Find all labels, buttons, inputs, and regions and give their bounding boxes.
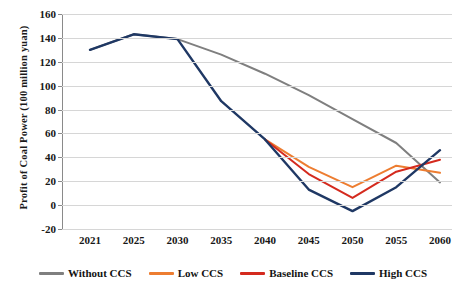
- y-axis-tick-label: -20: [16, 223, 56, 235]
- y-axis-tick-label: 20: [16, 175, 56, 187]
- y-axis-tick-label: 40: [16, 151, 56, 163]
- plot-area: [62, 14, 452, 229]
- gridline: [62, 133, 452, 134]
- legend-label: Without CCS: [68, 267, 132, 279]
- chart-legend: Without CCSLow CCSBaseline CCSHigh CCS: [0, 262, 466, 284]
- legend-item[interactable]: Low CCS: [149, 267, 224, 279]
- x-axis-tick-label: 2050: [342, 234, 364, 246]
- legend-label: High CCS: [379, 267, 427, 279]
- gridline: [62, 86, 452, 87]
- y-axis-tick-label: 140: [16, 32, 56, 44]
- y-axis-tick-label: 160: [16, 8, 56, 20]
- legend-color-swatch: [240, 272, 265, 275]
- legend-color-swatch: [350, 272, 375, 275]
- legend-color-swatch: [149, 272, 174, 275]
- y-axis-tickmark: [58, 110, 62, 111]
- y-axis-tickmark: [58, 38, 62, 39]
- y-axis-tickmark: [58, 181, 62, 182]
- gridline: [62, 181, 452, 182]
- x-axis-tick-labels: 202120252030203520402045205020552060: [62, 234, 452, 254]
- x-axis-tick-label: 2060: [429, 234, 451, 246]
- x-axis-tick-label: 2040: [254, 234, 276, 246]
- y-axis-tick-label: 120: [16, 56, 56, 68]
- series-line: [265, 139, 440, 187]
- gridline: [62, 110, 452, 111]
- gridline: [62, 157, 452, 158]
- y-axis-tick-label: 60: [16, 127, 56, 139]
- series-lines: [62, 14, 452, 229]
- y-axis-tick-label: 0: [16, 199, 56, 211]
- y-axis-tickmark: [58, 229, 62, 230]
- series-line: [90, 34, 440, 182]
- x-axis-tick-label: 2045: [298, 234, 320, 246]
- y-axis-tickmark: [58, 86, 62, 87]
- gridline: [62, 229, 452, 230]
- x-axis-tick-label: 2035: [210, 234, 232, 246]
- legend-item[interactable]: High CCS: [350, 267, 427, 279]
- x-axis-tick-label: 2025: [123, 234, 145, 246]
- gridline: [62, 38, 452, 39]
- legend-label: Low CCS: [178, 267, 224, 279]
- y-axis-tickmark: [58, 157, 62, 158]
- gridline: [62, 205, 452, 206]
- gridline: [62, 14, 452, 15]
- y-axis-tick-label: 80: [16, 104, 56, 116]
- gridline: [62, 62, 452, 63]
- y-axis-line: [62, 14, 63, 229]
- chart-figure: Profit of Coal Power (100 million yuan) …: [0, 0, 466, 291]
- y-axis-tickmark: [58, 205, 62, 206]
- y-axis-tickmark: [58, 14, 62, 15]
- legend-color-swatch: [39, 272, 64, 275]
- x-axis-tick-label: 2021: [79, 234, 101, 246]
- y-axis-tickmark: [58, 133, 62, 134]
- legend-label: Baseline CCS: [269, 267, 333, 279]
- y-axis-tickmark: [58, 62, 62, 63]
- y-axis-tick-label: 100: [16, 80, 56, 92]
- legend-item[interactable]: Baseline CCS: [240, 267, 333, 279]
- x-axis-tick-label: 2030: [167, 234, 189, 246]
- legend-item[interactable]: Without CCS: [39, 267, 132, 279]
- y-axis-tick-labels: 160140120100806040200-20: [14, 0, 56, 291]
- x-axis-tick-label: 2055: [385, 234, 407, 246]
